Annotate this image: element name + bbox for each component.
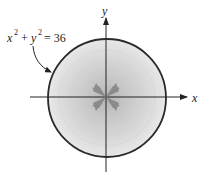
eq-plus: +	[21, 31, 28, 45]
eq-equals: = 36	[44, 31, 66, 45]
callout-arrow	[33, 46, 51, 72]
eq-y-exp: 2	[38, 28, 42, 37]
y-axis-label: y	[101, 4, 108, 18]
equation-label: x 2 + y 2 = 36	[6, 28, 66, 45]
eq-y: y	[30, 31, 37, 45]
circle-diagram: y x x 2 + y 2 = 36	[0, 0, 207, 175]
x-axis-label: x	[191, 91, 198, 105]
eq-x-exp: 2	[14, 28, 18, 37]
eq-x: x	[6, 31, 13, 45]
